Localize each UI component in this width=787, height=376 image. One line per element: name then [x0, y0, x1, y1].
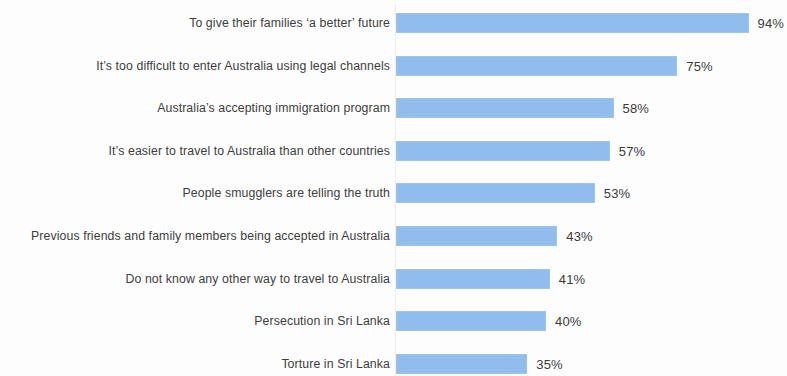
category-label: Do not know any other way to travel to A…: [125, 269, 390, 289]
category-label: It’s easier to travel to Australia than …: [109, 141, 390, 161]
chart-row: Previous friends and family members bein…: [0, 226, 787, 268]
chart-row: People smugglers are telling the truth53…: [0, 183, 787, 225]
category-label: Persecution in Sri Lanka: [254, 311, 390, 331]
bar: [396, 56, 677, 76]
category-label: Previous friends and family members bein…: [31, 226, 390, 246]
bar-value-label: 58%: [623, 98, 650, 118]
bar-track: 75%: [396, 56, 787, 76]
chart-row: Do not know any other way to travel to A…: [0, 269, 787, 311]
bar-value-label: 41%: [559, 269, 586, 289]
bar-track: 58%: [396, 98, 787, 118]
bar-track: 94%: [396, 13, 787, 33]
bar: [396, 183, 595, 203]
bar-track: 40%: [396, 311, 787, 331]
bar: [396, 98, 614, 118]
bar-value-label: 75%: [686, 56, 713, 76]
bar-value-label: 94%: [758, 13, 785, 33]
horizontal-bar-chart: To give their families ‘a better’ future…: [0, 0, 787, 376]
bar-value-label: 35%: [536, 354, 563, 374]
bar-track: 53%: [396, 183, 787, 203]
chart-row: To give their families ‘a better’ future…: [0, 13, 787, 55]
bar: [396, 269, 550, 289]
category-label: It’s too difficult to enter Australia us…: [96, 56, 390, 76]
bar: [396, 13, 749, 33]
bar-track: 43%: [396, 226, 787, 246]
bar-value-label: 53%: [604, 183, 631, 203]
category-label: To give their families ‘a better’ future: [189, 13, 390, 33]
category-label: Australia’s accepting immigration progra…: [157, 98, 390, 118]
bar-track: 35%: [396, 354, 787, 374]
bar: [396, 354, 527, 374]
bar-value-label: 40%: [555, 311, 582, 331]
bar-track: 41%: [396, 269, 787, 289]
category-label: Torture in Sri Lanka: [281, 354, 390, 374]
bar: [396, 141, 610, 161]
bar-track: 57%: [396, 141, 787, 161]
bar: [396, 311, 546, 331]
category-label: People smugglers are telling the truth: [183, 183, 391, 203]
chart-row: Australia’s accepting immigration progra…: [0, 98, 787, 140]
bar-value-label: 57%: [619, 141, 646, 161]
chart-row: It’s too difficult to enter Australia us…: [0, 56, 787, 98]
chart-row: Torture in Sri Lanka35%: [0, 354, 787, 376]
bar-value-label: 43%: [566, 226, 593, 246]
chart-row: Persecution in Sri Lanka40%: [0, 311, 787, 353]
bar: [396, 226, 557, 246]
chart-row: It’s easier to travel to Australia than …: [0, 141, 787, 183]
